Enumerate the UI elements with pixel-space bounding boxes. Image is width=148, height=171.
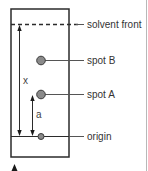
solvent-front-label: solvent front: [87, 19, 142, 30]
spot-a: [37, 90, 46, 99]
spot-b-label: spot B: [87, 55, 116, 66]
origin-label: origin: [87, 131, 111, 142]
solvent-direction-arrow-icon: [12, 164, 18, 171]
spot-a-label: spot A: [87, 89, 115, 100]
chromatography-diagram: x a solvent front spot B spot A origin: [0, 0, 148, 171]
origin-spot: [38, 134, 44, 140]
distance-a-label: a: [36, 109, 42, 120]
spot-b: [37, 56, 46, 65]
distance-x-label: x: [23, 75, 28, 86]
